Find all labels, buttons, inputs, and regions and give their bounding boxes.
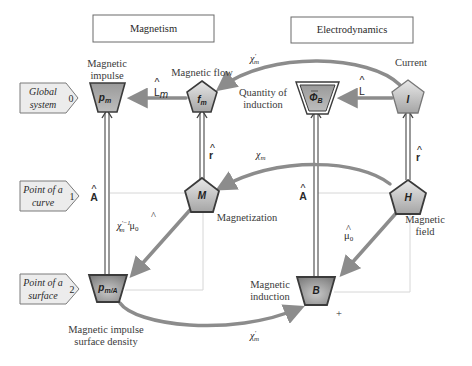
level-tag-line2: system — [30, 99, 57, 110]
level-tag-line2: curve — [32, 197, 55, 208]
op-text: μ0 — [344, 230, 354, 243]
node-symbol: M — [198, 190, 207, 201]
header-magnetism-label: Magnetism — [130, 23, 177, 34]
header-electrodynamics: Electrodynamics — [291, 17, 413, 43]
op-text: χ'−1mμ0 — [116, 219, 139, 234]
label-quantity-of-induction-1: Quantity of — [239, 87, 288, 98]
double-arrow-r-right — [403, 110, 413, 180]
op-chi-mu-left: χ'−1mμ0 ^ — [116, 210, 156, 234]
label-magnetic-induction-2: induction — [250, 291, 290, 302]
level-tag-index: 2 — [70, 284, 75, 295]
level-tag-index: 0 — [69, 93, 74, 104]
node-magnetic-field: H — [390, 180, 426, 214]
label-quantity-of-induction-2: induction — [243, 99, 283, 110]
label-magnetic-field-1: Magnetic — [405, 214, 445, 225]
label-magnetic-impulse-surface-density-2: surface density — [74, 336, 138, 347]
label-current: Current — [395, 57, 427, 68]
op-text: A — [90, 191, 98, 203]
op-chi-m: χm — [255, 149, 265, 162]
level-tag-point-of-curve: Point of a curve 1 — [20, 181, 79, 211]
node-magnetic-impulse: pm — [90, 83, 125, 112]
op-text: r — [209, 149, 213, 161]
op-text: r — [416, 151, 420, 163]
node-symbol: I — [407, 94, 410, 105]
grid-lines — [110, 193, 410, 292]
op-A-right: ^ A — [299, 182, 307, 202]
plus-sign: + — [336, 308, 342, 319]
tonti-diagram: Magnetism Electrodynamics Global system … — [0, 0, 472, 366]
op-text: L — [359, 85, 365, 97]
op-A-left: ^ A — [90, 183, 98, 203]
node-magnetization: M — [185, 178, 219, 212]
label-magnetization: Magnetization — [217, 212, 278, 223]
arrow-chi-m-prime-bottom — [120, 303, 300, 326]
label-magnetic-field-2: field — [415, 226, 435, 237]
label-magnetic-flow: Magnetic flow — [171, 67, 233, 78]
header-electrodynamics-label: Electrodynamics — [317, 24, 388, 35]
node-symbol: H — [404, 192, 412, 203]
level-tag-index: 1 — [70, 191, 75, 202]
level-tag-point-of-surface: Point of a surface 2 — [20, 274, 79, 304]
label-magnetic-impulse-surface-density-1: Magnetic impulse — [68, 324, 144, 335]
label-magnetic-induction-1: Magnetic — [250, 279, 290, 290]
op-L-m: ^ Lm — [154, 76, 168, 100]
label-magnetic-impulse-1: Magnetic — [87, 58, 127, 69]
node-quantity-of-induction: ΦB — [296, 82, 339, 114]
node-current: I — [392, 80, 424, 113]
arrow-chi-mu-left — [133, 210, 190, 274]
op-mu-0: ^ μ0 — [344, 223, 354, 243]
op-r-right: ^ r — [416, 144, 422, 163]
node-labels: Magnetic impulse Magnetic flow Quantity … — [68, 57, 445, 347]
node-magnetic-flow: fm — [187, 81, 217, 112]
op-r-left: ^ r — [209, 142, 215, 161]
op-L: ^ L — [359, 74, 365, 97]
node-magnetic-impulse-surface-density: pm/A — [89, 275, 127, 302]
double-arrow-r-left — [197, 110, 207, 180]
level-tag-line1: Point of a — [22, 184, 62, 195]
node-magnetic-induction: B — [297, 277, 335, 305]
op-chi-m-prime-top: χ'm — [249, 52, 259, 66]
node-symbol: B — [312, 285, 319, 296]
op-text: χ'm — [249, 329, 259, 343]
level-tag-line1: Global — [29, 86, 57, 97]
level-tag-global-system: Global system 0 — [20, 83, 78, 113]
op-text: A — [299, 190, 307, 202]
label-magnetic-impulse-2: impulse — [90, 70, 124, 81]
level-tag-line1: Point of a — [22, 277, 62, 288]
op-chi-m-prime-bottom: χ'm — [249, 329, 259, 343]
op-text: Lm — [154, 86, 168, 100]
op-text: χ'm — [249, 52, 259, 66]
header-magnetism: Magnetism — [93, 15, 214, 42]
hat: ^ — [151, 210, 156, 221]
level-tag-line2: surface — [28, 290, 58, 301]
op-text: χm — [255, 149, 265, 162]
